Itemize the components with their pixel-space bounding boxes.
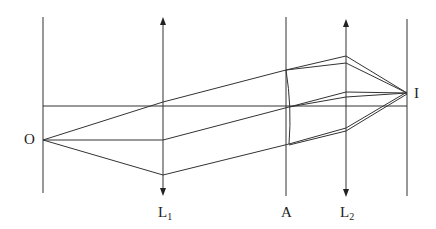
arrow-up-icon bbox=[160, 17, 166, 25]
arrow-down-icon bbox=[343, 189, 349, 197]
label-aperture: A bbox=[281, 205, 292, 220]
ray-lower bbox=[43, 92, 407, 175]
ray-central bbox=[43, 92, 407, 140]
label-image: I bbox=[414, 86, 419, 101]
label-lens2: L2 bbox=[340, 205, 354, 222]
arrow-down-icon bbox=[160, 188, 166, 196]
lens-L2 bbox=[343, 19, 349, 197]
ray-lower-secondary bbox=[289, 94, 407, 145]
optics-diagram bbox=[0, 0, 436, 229]
arrow-up-icon bbox=[343, 19, 349, 27]
label-object: O bbox=[24, 132, 35, 147]
label-lens1: L1 bbox=[158, 205, 172, 222]
